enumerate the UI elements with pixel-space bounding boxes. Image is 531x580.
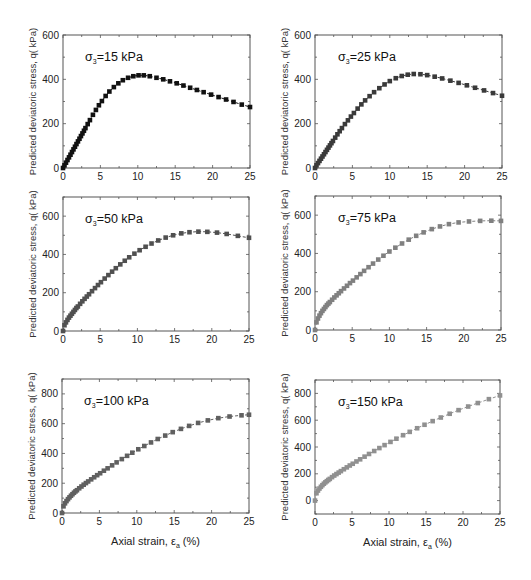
data-point bbox=[147, 74, 152, 79]
x-tick-label: 25 bbox=[496, 171, 508, 182]
data-point bbox=[400, 241, 405, 246]
data-point bbox=[381, 253, 386, 258]
y-tick-label: 200 bbox=[294, 468, 311, 479]
x-tick-label: 10 bbox=[384, 171, 396, 182]
data-point bbox=[126, 75, 131, 80]
y-tick-label: 600 bbox=[42, 211, 59, 222]
data-point bbox=[407, 430, 412, 435]
y-tick-label: 0 bbox=[53, 163, 59, 174]
x-tick-label: 10 bbox=[383, 517, 395, 528]
data-point bbox=[487, 397, 492, 402]
y-axis-label: Predicted deviatoric stress, q( kPa) bbox=[26, 372, 37, 519]
y-tick-label: 0 bbox=[53, 326, 59, 337]
data-point bbox=[447, 411, 452, 416]
data-point bbox=[372, 449, 377, 454]
y-tick-label: 400 bbox=[42, 249, 59, 260]
data-point bbox=[116, 81, 121, 86]
data-point bbox=[367, 452, 372, 457]
data-point bbox=[216, 95, 221, 100]
data-point bbox=[248, 105, 253, 110]
data-point bbox=[393, 76, 398, 81]
y-tick-label: 200 bbox=[42, 287, 59, 298]
y-tick-label: 800 bbox=[41, 388, 58, 399]
data-point bbox=[405, 72, 410, 77]
data-point bbox=[439, 415, 444, 420]
chart-panel-1: 05101520250200400600Predicted deviatoric… bbox=[27, 28, 256, 182]
data-point bbox=[142, 444, 147, 449]
data-point bbox=[91, 113, 96, 118]
x-tick-label: 20 bbox=[459, 171, 471, 182]
confining-pressure-annotation: σ3=15 kPa bbox=[85, 50, 143, 65]
data-point bbox=[130, 450, 135, 455]
data-point bbox=[358, 457, 363, 462]
x-tick-label: 0 bbox=[312, 171, 318, 182]
confining-pressure-annotation: σ3=75 kPa bbox=[338, 211, 396, 226]
data-point bbox=[393, 245, 398, 250]
series-line bbox=[63, 232, 249, 331]
data-point bbox=[201, 90, 206, 95]
data-point bbox=[136, 73, 141, 78]
data-point bbox=[161, 77, 166, 82]
data-point bbox=[163, 235, 168, 240]
x-tick-label: 25 bbox=[495, 333, 507, 344]
data-point bbox=[377, 86, 382, 91]
chart-panel-6: 05101520250200400600800Predicted deviato… bbox=[279, 373, 506, 550]
x-tick-label: 15 bbox=[169, 334, 181, 345]
data-point bbox=[388, 440, 393, 445]
data-point bbox=[209, 92, 214, 97]
data-point bbox=[224, 97, 229, 102]
data-point bbox=[239, 413, 244, 418]
y-tick-label: 400 bbox=[294, 248, 311, 259]
data-point bbox=[473, 85, 478, 90]
data-point bbox=[388, 79, 393, 84]
y-tick-label: 800 bbox=[294, 388, 311, 399]
x-tick-label: 25 bbox=[244, 171, 256, 182]
confining-pressure-annotation: σ3=50 kPa bbox=[85, 212, 143, 227]
data-point bbox=[132, 251, 137, 256]
data-point bbox=[421, 230, 426, 235]
data-point bbox=[60, 511, 65, 516]
x-tick-label: 0 bbox=[59, 516, 65, 527]
data-point bbox=[411, 72, 416, 77]
data-point bbox=[231, 100, 236, 105]
y-tick-label: 400 bbox=[42, 74, 59, 85]
data-point bbox=[401, 433, 406, 438]
x-tick-label: 5 bbox=[97, 334, 103, 345]
x-tick-label: 20 bbox=[457, 517, 469, 528]
y-axis-label: Predicted deviatoric stress, q( kPa) bbox=[279, 28, 290, 175]
data-point bbox=[187, 230, 192, 235]
x-tick-label: 5 bbox=[97, 516, 103, 527]
x-tick-label: 20 bbox=[206, 334, 218, 345]
data-point bbox=[394, 436, 399, 441]
x-tick-label: 20 bbox=[206, 516, 218, 527]
data-point bbox=[131, 74, 136, 79]
x-tick-label: 0 bbox=[60, 334, 66, 345]
data-point bbox=[206, 418, 211, 423]
x-tick-label: 25 bbox=[494, 517, 506, 528]
x-tick-label: 0 bbox=[312, 333, 318, 344]
data-point bbox=[362, 269, 367, 274]
x-tick-label: 25 bbox=[243, 334, 255, 345]
data-point bbox=[363, 98, 368, 103]
data-point bbox=[187, 424, 192, 429]
data-point bbox=[440, 76, 445, 81]
data-point bbox=[88, 118, 93, 123]
y-tick-label: 600 bbox=[42, 30, 59, 41]
x-tick-label: 10 bbox=[131, 516, 143, 527]
data-point bbox=[355, 106, 360, 111]
x-tick-label: 0 bbox=[60, 171, 66, 182]
y-axis-label: Predicted deviatoric stress, q( kPa) bbox=[27, 190, 38, 337]
x-axis-label: Axial strain, εa (%) bbox=[363, 536, 452, 550]
data-point bbox=[179, 427, 184, 432]
data-point bbox=[500, 93, 505, 98]
y-tick-label: 200 bbox=[294, 118, 311, 129]
y-tick-label: 200 bbox=[41, 478, 58, 489]
data-point bbox=[382, 443, 387, 448]
data-point bbox=[136, 447, 141, 452]
data-point bbox=[491, 91, 496, 96]
data-point bbox=[114, 460, 119, 465]
data-point bbox=[399, 74, 404, 79]
data-point bbox=[415, 426, 420, 431]
data-point bbox=[430, 227, 435, 232]
data-point bbox=[247, 235, 252, 240]
